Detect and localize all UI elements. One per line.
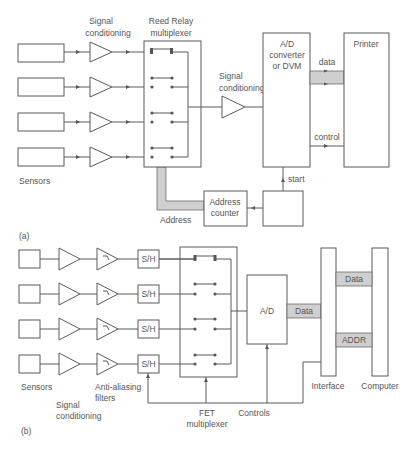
label-signal-conditioning-a: Signal (89, 16, 113, 26)
svg-text:S/H: S/H (141, 254, 155, 264)
filter-icon (97, 283, 118, 305)
sensor-box (19, 250, 40, 268)
computer-box (372, 248, 388, 376)
label-address: Address (160, 215, 191, 225)
channel-row: S/H (19, 353, 195, 375)
label-sensors-a: Sensors (19, 176, 50, 186)
data-bus (310, 71, 344, 84)
label-control: control (314, 132, 340, 142)
label-data-b: Data (295, 306, 313, 316)
label-signal-conditioning-b-2: conditioning (56, 411, 102, 421)
control-lines (146, 344, 321, 403)
amplifier-icon (222, 96, 245, 118)
amplifier-icon (90, 112, 112, 132)
filter-icon (97, 353, 118, 375)
label-or-dvm: or DVM (273, 61, 302, 71)
label-address-counter-2: counter (211, 208, 240, 218)
amplifier-icon (59, 283, 80, 305)
label-controls: Controls (238, 408, 270, 418)
label-ad-b: A/D (260, 306, 274, 316)
printer-box (344, 33, 389, 167)
amplifier-icon (59, 318, 80, 340)
label-ad: A/D (280, 39, 294, 49)
label-signal-conditioning-a-2: conditioning (85, 28, 131, 38)
channel-row: S/H (19, 318, 195, 340)
label-converter: converter (269, 50, 305, 60)
sensor-box (18, 78, 64, 96)
label-computer: Computer (361, 381, 398, 391)
label-sensors-b: Sensors (21, 382, 52, 392)
label-fet: FET (199, 408, 215, 418)
label-signal-conditioning-b: Signal (56, 400, 80, 410)
reed-relay-multiplexer (144, 41, 222, 167)
sensor-box (18, 148, 64, 166)
label-reed-relay-2: multiplexer (150, 28, 191, 38)
sensor-box (19, 355, 40, 373)
sensor-box (18, 44, 64, 62)
amplifier-icon (90, 77, 112, 97)
filter-icon (97, 318, 118, 340)
arrow-icon (126, 85, 130, 89)
label-fet-multiplexer: multiplexer (186, 419, 227, 429)
fet-multiplexer (159, 247, 247, 377)
arrow-icon (126, 50, 130, 54)
svg-text:S/H: S/H (141, 324, 155, 334)
label-data: data (319, 57, 336, 67)
sensor-box (19, 285, 40, 303)
caption-b: (b) (21, 426, 32, 436)
label-addr: ADDR (342, 335, 366, 345)
channel-row: S/H (19, 283, 195, 305)
svg-text:S/H: S/H (141, 359, 155, 369)
arrow-icon (76, 50, 80, 54)
amplifier-icon (90, 42, 112, 62)
clock-box (263, 191, 303, 226)
svg-text:S/H: S/H (141, 289, 155, 299)
label-printer: Printer (353, 39, 378, 49)
arrow-icon (76, 120, 80, 124)
diagram-a: Signal conditioning Reed Relay multiplex… (18, 16, 389, 241)
sensor-channels-a (18, 42, 152, 167)
interface-box (321, 248, 336, 376)
amplifier-icon (59, 248, 80, 270)
label-data-computer: Data (345, 274, 363, 284)
sensor-box (19, 320, 40, 338)
arrow-icon (126, 120, 130, 124)
data-acquisition-diagram: Signal conditioning Reed Relay multiplex… (0, 0, 407, 453)
label-signal-conditioning-mid: Signal (219, 71, 243, 81)
label-reed-relay: Reed Relay (149, 16, 194, 26)
label-address-counter: Address (209, 197, 240, 207)
caption-a: (a) (19, 231, 30, 241)
amplifier-icon (90, 147, 112, 167)
label-start: start (288, 174, 305, 184)
label-anti-aliasing: Anti-aliasing (95, 382, 142, 392)
filter-icon (97, 248, 118, 270)
channels-b: S/H S/H (19, 248, 195, 375)
sensor-box (18, 113, 64, 131)
address-bus (157, 167, 204, 210)
diagram-b: S/H S/H (19, 247, 399, 436)
label-interface: Interface (311, 381, 344, 391)
label-signal-conditioning-mid-2: conditioning (219, 83, 265, 93)
amplifier-icon (59, 353, 80, 375)
arrow-icon (76, 85, 80, 89)
arrow-icon (126, 155, 130, 159)
label-filters: filters (95, 393, 115, 403)
arrow-icon (76, 155, 80, 159)
